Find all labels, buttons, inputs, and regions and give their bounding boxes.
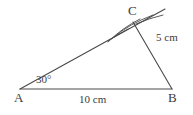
compass-arc-mark-lower: [108, 29, 128, 41]
vertex-label-c: C: [128, 4, 137, 17]
measure-label-ab: 10 cm: [79, 94, 106, 105]
geometry-figure: A B C 30° 10 cm 5 cm: [0, 0, 193, 115]
angle-label-a: 30°: [36, 74, 51, 85]
measure-label-bc: 5 cm: [156, 32, 178, 43]
vertex-label-b: B: [168, 91, 177, 104]
vertex-label-a: A: [14, 91, 23, 104]
